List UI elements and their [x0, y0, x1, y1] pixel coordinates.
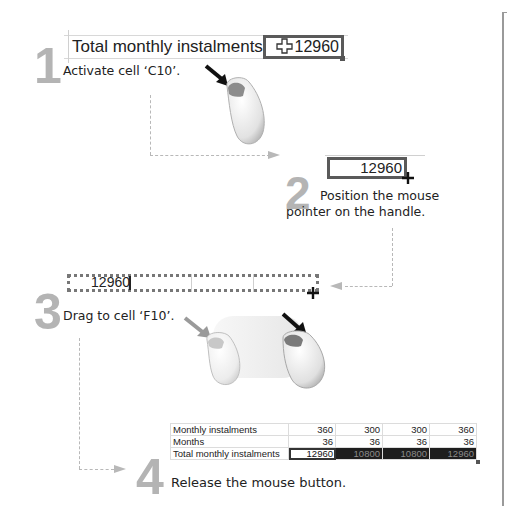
- mouse-drag-illustration: [183, 312, 343, 392]
- step-4-instruction: Release the mouse button.: [171, 474, 346, 491]
- step-2-instruction-line1: Position the mouse: [320, 187, 439, 204]
- step-3-cell-edge: [129, 276, 131, 290]
- step-2-cell-value: 12960: [360, 159, 402, 176]
- connector-2-3-vertical: [392, 228, 393, 286]
- cell[interactable]: 300: [383, 424, 430, 436]
- result-table: Monthly instalments 360 300 300 360 Mont…: [170, 423, 477, 460]
- step-3-instruction: Drag to cell ‘F10’.: [63, 307, 174, 324]
- connector-3-4-vertical: [79, 338, 80, 469]
- connector-3-4-horizontal: [79, 469, 114, 470]
- page-right-border: [502, 12, 504, 506]
- cell[interactable]: 36: [430, 436, 477, 448]
- cell-selected[interactable]: 10800: [336, 448, 383, 460]
- step-4-number: 4: [136, 452, 164, 502]
- row-label: Monthly instalments: [171, 424, 289, 436]
- cell[interactable]: 36: [289, 436, 336, 448]
- step-1-cell-label: Total monthly instalments: [72, 36, 263, 58]
- table-row: Monthly instalments 360 300 300 360: [171, 424, 477, 436]
- thin-cross-cursor-icon: [306, 285, 320, 304]
- step-2-active-cell[interactable]: 12960: [327, 157, 407, 179]
- step-2-gridline: [325, 155, 425, 156]
- step-1-gridline: [68, 30, 69, 63]
- connector-arrow-left-icon: [330, 282, 342, 290]
- row-label: Months: [171, 436, 289, 448]
- row-label: Total monthly instalments: [171, 448, 289, 460]
- step-3-cell-value: 12960: [70, 275, 130, 290]
- step-3-number: 3: [34, 287, 62, 337]
- cell[interactable]: 300: [336, 424, 383, 436]
- cell-active[interactable]: 12960: [289, 448, 336, 460]
- step-1-cell-value: 12960: [295, 38, 340, 55]
- table-row-selected: Total monthly instalments 12960 10800 10…: [171, 448, 477, 460]
- fill-handle[interactable]: [476, 460, 480, 464]
- step-1-number: 1: [34, 41, 62, 91]
- cell[interactable]: 36: [336, 436, 383, 448]
- connector-1-2-vertical: [150, 95, 151, 155]
- connector-arrow-icon: [114, 465, 126, 473]
- cell[interactable]: 36: [383, 436, 430, 448]
- step-2-instruction-line2: pointer on the handle.: [286, 203, 425, 220]
- cell[interactable]: 360: [289, 424, 336, 436]
- cell[interactable]: 360: [430, 424, 477, 436]
- cell-selected[interactable]: 12960: [430, 448, 477, 460]
- connector-2-3-horizontal: [345, 286, 392, 287]
- connector-1-2-horizontal: [150, 155, 270, 156]
- cell-selected[interactable]: 10800: [383, 448, 430, 460]
- mouse-click-illustration: [203, 62, 271, 147]
- step-1-active-cell[interactable]: 12960: [263, 35, 344, 59]
- connector-arrow-icon: [268, 151, 280, 159]
- fill-handle[interactable]: [340, 56, 345, 61]
- table-row: Months 36 36 36 36: [171, 436, 477, 448]
- step-1-instruction: Activate cell ‘C10’.: [63, 62, 180, 79]
- page-right-border-top: [502, 12, 507, 13]
- fat-cross-cursor-icon: [276, 38, 294, 58]
